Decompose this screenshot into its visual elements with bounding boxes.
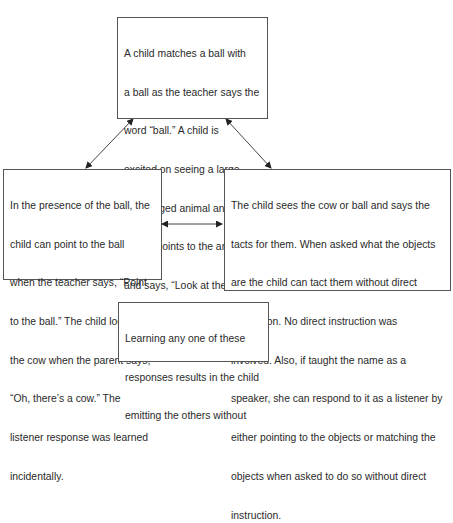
box-bottom-line: responses results in the child	[125, 372, 262, 385]
box-bottom-line: emitting the others without	[125, 410, 262, 423]
box-right-line: tacts for them. When asked what the obje…	[231, 239, 444, 252]
box-bottom-line: Learning any one of these	[125, 333, 262, 346]
box-top: A child matches a ball with a ball as th…	[117, 17, 268, 119]
box-left-line: when the teacher says, “Point	[10, 277, 155, 290]
box-right: The child sees the cow or ball and says …	[224, 169, 451, 291]
box-top-line: a ball as the teacher says the	[124, 87, 261, 100]
box-right-line: objects when asked to do so without dire…	[231, 471, 444, 484]
box-bottom: Learning any one of these responses resu…	[118, 302, 269, 362]
box-left-line: child can point to the ball	[10, 239, 155, 252]
box-top-line: A child matches a ball with	[124, 48, 261, 61]
box-right-line: either pointing to the objects or matchi…	[231, 432, 444, 445]
box-right-line: speaker, she can respond to it as a list…	[231, 393, 444, 406]
box-right-line: are the child can tact them without dire…	[231, 277, 444, 290]
box-top-line: word “ball.” A child is	[124, 125, 261, 138]
box-right-line: The child sees the cow or ball and says …	[231, 200, 444, 213]
box-left: In the presence of the ball, the child c…	[3, 169, 162, 280]
box-left-line: In the presence of the ball, the	[10, 200, 155, 213]
box-left-line: incidentally.	[10, 471, 155, 484]
box-right-line: instruction.	[231, 510, 444, 523]
